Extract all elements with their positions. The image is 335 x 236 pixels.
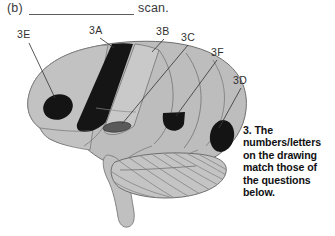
callout-label-3B: 3B xyxy=(156,25,169,37)
figure-page: (b) scan. xyxy=(0,0,335,236)
callout-label-3E: 3E xyxy=(17,28,30,40)
callout-label-3D: 3D xyxy=(233,74,247,86)
callout-label-3A: 3A xyxy=(89,24,102,36)
callout-label-3F: 3F xyxy=(211,46,224,58)
instruction-text: 3. The numbers/letters on the drawing ma… xyxy=(243,124,331,198)
callout-label-3C: 3C xyxy=(181,31,195,43)
